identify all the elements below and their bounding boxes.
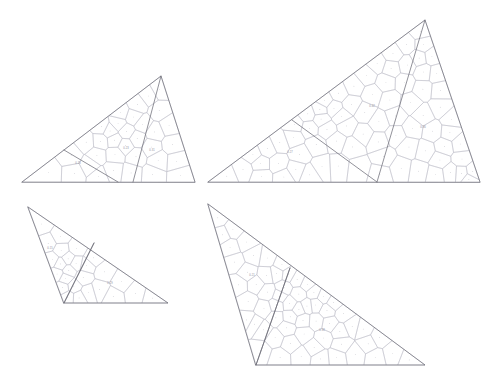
mesh-node bbox=[264, 308, 265, 309]
mesh-node bbox=[336, 357, 337, 358]
mesh-node bbox=[412, 128, 413, 129]
mesh-node bbox=[83, 277, 84, 278]
mesh-node bbox=[396, 135, 397, 136]
mesh-node bbox=[217, 218, 218, 219]
mesh-node bbox=[338, 93, 339, 94]
mesh-node bbox=[420, 31, 421, 32]
mesh-node bbox=[65, 278, 66, 279]
mesh-node bbox=[440, 160, 441, 161]
mesh-node bbox=[142, 124, 143, 125]
mesh-node bbox=[418, 171, 419, 172]
cell-value-label: 0.21 bbox=[249, 273, 255, 277]
mesh-node bbox=[320, 109, 321, 110]
mesh-node bbox=[226, 176, 227, 177]
mesh-node bbox=[309, 175, 310, 176]
mesh-node bbox=[74, 173, 75, 174]
mesh-node bbox=[114, 140, 115, 141]
mesh-node bbox=[314, 347, 315, 348]
mesh-node bbox=[354, 86, 355, 87]
mesh-node bbox=[304, 334, 305, 335]
mesh-node bbox=[395, 116, 396, 117]
mesh-node bbox=[346, 126, 347, 127]
cell-value-label: 0.36 bbox=[420, 125, 426, 129]
mesh-node bbox=[341, 116, 342, 117]
mesh-node bbox=[248, 301, 249, 302]
mesh-node bbox=[329, 323, 330, 324]
mesh-node bbox=[48, 243, 49, 244]
cell-value-label: 0.15 bbox=[47, 246, 53, 250]
mesh-node bbox=[440, 90, 441, 91]
mesh-node bbox=[352, 326, 353, 327]
mesh-node bbox=[460, 144, 461, 145]
mesh-node bbox=[176, 161, 177, 162]
mesh-node bbox=[352, 147, 353, 148]
figure-canvas: 0.230.180.310.420.270.360.150.290.210.38 bbox=[0, 0, 503, 381]
mesh-node bbox=[276, 318, 277, 319]
mesh-node bbox=[450, 132, 451, 133]
mesh-node bbox=[76, 248, 77, 249]
mesh-node bbox=[366, 75, 367, 76]
mesh-node bbox=[290, 317, 291, 318]
mesh-node bbox=[52, 259, 53, 260]
mesh-node bbox=[68, 259, 69, 260]
mesh-node bbox=[280, 357, 281, 358]
cell-value-label: 0.27 bbox=[287, 150, 293, 154]
mesh-node bbox=[67, 297, 68, 298]
mesh-node bbox=[86, 142, 87, 143]
mesh-node bbox=[101, 126, 102, 127]
mesh-node bbox=[100, 141, 101, 142]
mesh-node bbox=[299, 309, 300, 310]
mesh-node bbox=[267, 292, 268, 293]
mesh-node bbox=[104, 272, 105, 273]
mesh-node bbox=[343, 313, 344, 314]
mesh-node bbox=[267, 258, 268, 259]
mesh-node bbox=[136, 156, 137, 157]
mesh-node bbox=[152, 174, 153, 175]
mesh-node bbox=[253, 154, 254, 155]
mesh-node bbox=[169, 125, 170, 126]
mesh-node bbox=[113, 170, 114, 171]
mesh-node bbox=[365, 112, 366, 113]
mesh-node bbox=[135, 293, 136, 294]
mesh-node bbox=[71, 155, 72, 156]
mesh-node bbox=[115, 154, 116, 155]
mesh-node bbox=[110, 131, 111, 132]
mesh-node bbox=[307, 114, 308, 115]
mesh-node bbox=[469, 179, 470, 180]
mesh-node bbox=[60, 264, 61, 265]
mesh-cell bbox=[330, 153, 350, 182]
mesh-node bbox=[323, 338, 324, 339]
mesh-node bbox=[261, 176, 262, 177]
mesh-node bbox=[334, 108, 335, 109]
mesh-node bbox=[338, 166, 339, 167]
mesh-node bbox=[425, 150, 426, 151]
mesh-node bbox=[423, 115, 424, 116]
mesh-node bbox=[407, 65, 408, 66]
mesh-node bbox=[307, 284, 308, 285]
mesh-node bbox=[243, 169, 244, 170]
mesh-node bbox=[180, 175, 181, 176]
mesh-node bbox=[246, 320, 247, 321]
mesh-node bbox=[333, 302, 334, 303]
mesh-node bbox=[280, 142, 281, 143]
mesh-node bbox=[253, 255, 254, 256]
mesh-node bbox=[299, 154, 300, 155]
mesh-node bbox=[363, 329, 364, 330]
mesh-node bbox=[148, 96, 149, 97]
mesh-node bbox=[378, 142, 379, 143]
mesh-node bbox=[222, 234, 223, 235]
mesh-node bbox=[158, 160, 159, 161]
mesh-node bbox=[423, 72, 424, 73]
mesh-node bbox=[86, 265, 87, 266]
mesh-node bbox=[233, 229, 234, 230]
mesh-node bbox=[246, 242, 247, 243]
mesh-node bbox=[324, 100, 325, 101]
mesh-node bbox=[314, 292, 315, 293]
mesh-node bbox=[126, 131, 127, 132]
mesh-node bbox=[99, 289, 100, 290]
mesh-node bbox=[289, 303, 290, 304]
mesh-node bbox=[351, 104, 352, 105]
mesh-node bbox=[379, 337, 380, 338]
mesh-node bbox=[154, 132, 155, 133]
mesh-node bbox=[172, 144, 173, 145]
